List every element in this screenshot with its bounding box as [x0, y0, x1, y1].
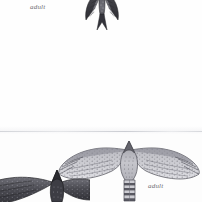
caption-bottom-adult: adult	[148, 183, 163, 190]
field-guide-page: adult	[0, 0, 202, 202]
lower-dark-hawk-right-wing-speckle	[62, 179, 90, 200]
top-raptor-tail	[97, 14, 107, 30]
figure-top-raptor	[84, 0, 120, 34]
figure-lower-dark-hawk	[0, 168, 90, 202]
page-fold-seam	[0, 131, 202, 132]
caption-top-adult: adult	[30, 4, 45, 11]
